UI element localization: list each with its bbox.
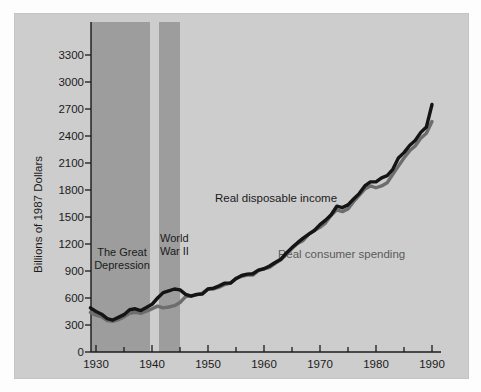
y-tick-label: 0 (38, 346, 84, 358)
x-tick-label: 1980 (363, 358, 389, 370)
y-tick-label: 1800 (38, 184, 84, 196)
y-tick-label: 600 (38, 292, 84, 304)
x-tick-label: 1970 (307, 358, 333, 370)
band-label-great-depression: The GreatDepression (94, 246, 150, 272)
y-tick-label: 1500 (38, 211, 84, 223)
shaded-band-great-depression (91, 22, 150, 352)
series-label-real-consumer-spending: Real consumer spending (278, 248, 405, 260)
x-tick-label: 1990 (419, 358, 445, 370)
y-tick-label: 1200 (38, 238, 84, 250)
y-tick-label: 2700 (38, 103, 84, 115)
y-tick-label: 300 (38, 319, 84, 331)
x-tick-label: 1950 (195, 358, 221, 370)
chart-panel: The GreatDepression WorldWar II Billions… (14, 13, 469, 379)
x-tick-label: 1930 (83, 358, 109, 370)
series-label-real-disposable-income: Real disposable income (215, 192, 337, 204)
x-tick-label: 1940 (139, 358, 165, 370)
y-tick-label: 3300 (38, 49, 84, 61)
band-label-world-war-ii: WorldWar II (160, 232, 204, 258)
y-tick-label: 2400 (38, 130, 84, 142)
y-tick-label: 2100 (38, 157, 84, 169)
chart-screenshot: The GreatDepression WorldWar II Billions… (0, 0, 481, 392)
x-tick-label: 1960 (251, 358, 277, 370)
y-tick-label: 900 (38, 265, 84, 277)
y-tick-label: 3000 (38, 76, 84, 88)
shaded-band-world-war-ii (159, 22, 180, 352)
